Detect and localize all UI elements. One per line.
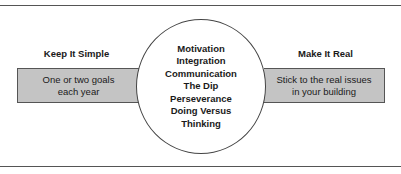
center-circle: Motivation Integration Communication The… xyxy=(136,19,266,154)
circle-item: The Dip xyxy=(184,80,219,93)
box-line: Stick to the real issues xyxy=(264,74,384,86)
circle-item: Communication xyxy=(165,68,237,81)
circle-item: Thinking xyxy=(181,118,221,131)
make-it-real-box: Stick to the real issues in your buildin… xyxy=(264,68,385,103)
box-line: One or two goals xyxy=(18,74,139,86)
circle-item: Motivation xyxy=(177,43,225,56)
keep-it-simple-box: One or two goals each year xyxy=(17,68,139,103)
circle-item: Integration xyxy=(176,55,225,68)
make-it-real-heading: Make It Real xyxy=(266,48,385,59)
bottom-rule xyxy=(0,166,401,167)
keep-it-simple-heading: Keep It Simple xyxy=(17,48,136,59)
box-line: each year xyxy=(18,86,139,98)
circle-item: Perseverance xyxy=(170,93,232,106)
circle-item: Doing Versus xyxy=(171,105,232,118)
top-rule xyxy=(0,5,401,6)
box-line: in your building xyxy=(264,86,384,98)
